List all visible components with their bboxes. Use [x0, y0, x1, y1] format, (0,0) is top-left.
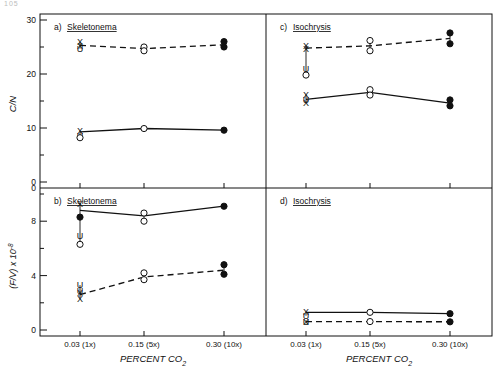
figure-svg: 01020300480C/N(F/V) x 10-80.03 (1x)0.15 …	[0, 0, 504, 374]
x-axis-title-subscript: 2	[407, 360, 412, 367]
marker-open-circle	[77, 241, 83, 247]
marker-x-symbol: X	[303, 317, 309, 327]
marker-filled-circle	[221, 262, 227, 268]
marker-open-circle	[141, 48, 147, 54]
marker-filled-circle	[447, 319, 453, 325]
panel-d: XUUXd)Isochrysis	[280, 196, 453, 327]
marker-open-circle	[367, 318, 373, 324]
marker-filled-circle	[221, 271, 227, 277]
marker-filled-circle	[447, 97, 453, 103]
marker-x-symbol: X	[303, 44, 309, 54]
y-axis-title-bottom-exponent: -8	[7, 243, 14, 249]
marker-open-circle	[141, 277, 147, 283]
series-line-solid-upper	[306, 312, 450, 313]
panel-species-name: Isochrysis	[293, 196, 331, 206]
x-tick-label: 0.15 (5x)	[128, 340, 160, 349]
marker-filled-circle	[221, 127, 227, 133]
marker-open-circle	[367, 37, 373, 43]
y-axis-title-top: C/N	[7, 96, 18, 113]
page-number: 105	[4, 0, 19, 7]
x-axis-title-subscript: 2	[181, 360, 186, 367]
marker-open-circle	[303, 72, 309, 78]
series-line-solid-upper	[80, 206, 224, 216]
marker-filled-circle	[447, 311, 453, 317]
series-line-solid-lower	[80, 129, 224, 132]
marker-filled-circle	[447, 41, 453, 47]
y-axis-title-bottom: (F/V) x 10-8	[7, 243, 19, 289]
y-tick-label-bottom: 4	[31, 271, 36, 281]
marker-x-symbol: X	[77, 294, 83, 304]
marker-u-symbol: U	[77, 231, 84, 241]
x-tick-label: 0.30 (10x)	[432, 340, 468, 349]
panel-a: XXUXUa)Skeletonema	[54, 22, 227, 141]
marker-filled-circle	[447, 30, 453, 36]
marker-open-circle	[141, 270, 147, 276]
panel-tag: b)	[54, 196, 62, 206]
x-tick-label: 0.30 (10x)	[206, 340, 242, 349]
marker-filled-circle	[77, 214, 83, 220]
panel-species-name: Skeletonema	[67, 196, 117, 206]
panel-species-name: Skeletonema	[67, 22, 117, 32]
panel-c: XXUXUXc)Isochrysis	[280, 22, 453, 109]
panel-tag: d)	[280, 196, 288, 206]
marker-open-circle	[141, 218, 147, 224]
marker-open-circle	[141, 125, 147, 131]
panel-b: XUUUXXb)Skeletonema	[54, 196, 227, 304]
x-tick-label: 0.15 (5x)	[354, 340, 386, 349]
series-line-solid-lower	[306, 92, 450, 103]
x-axis-title: PERCENT CO2	[120, 353, 186, 367]
marker-open-circle	[367, 92, 373, 98]
y-tick-label-top: 10	[27, 123, 37, 133]
figure-container: 105 01020300480C/N(F/V) x 10-80.03 (1x)0…	[0, 0, 504, 374]
x-axis-title: PERCENT CO2	[346, 353, 412, 367]
panel-species-name: Isochrysis	[293, 22, 331, 32]
y-tick-label-bottom: 8	[31, 216, 36, 226]
marker-filled-circle	[221, 203, 227, 209]
marker-x-symbol: X	[303, 98, 309, 108]
marker-open-circle	[77, 135, 83, 141]
marker-filled-circle	[221, 44, 227, 50]
marker-u-symbol: U	[77, 44, 84, 54]
marker-open-circle	[141, 210, 147, 216]
y-tick-label-top: 20	[27, 69, 37, 79]
series-line-dashed-upper	[306, 38, 450, 48]
series-line-dashed-upper	[80, 45, 224, 49]
marker-open-circle	[367, 48, 373, 54]
series-line-dashed-lower	[80, 270, 224, 294]
y-tick-label-shared-zero: 0	[31, 183, 36, 193]
y-tick-label-bottom: 0	[31, 325, 36, 335]
x-tick-label: 0.03 (1x)	[64, 340, 96, 349]
marker-filled-circle	[447, 103, 453, 109]
panel-tag: a)	[54, 22, 62, 32]
panel-tag: c)	[280, 22, 287, 32]
y-tick-label-top: 30	[27, 15, 37, 25]
x-tick-label: 0.03 (1x)	[290, 340, 322, 349]
y-axis-title-bottom-text: (F/V) x 10-8	[7, 243, 19, 289]
marker-open-circle	[367, 309, 373, 315]
